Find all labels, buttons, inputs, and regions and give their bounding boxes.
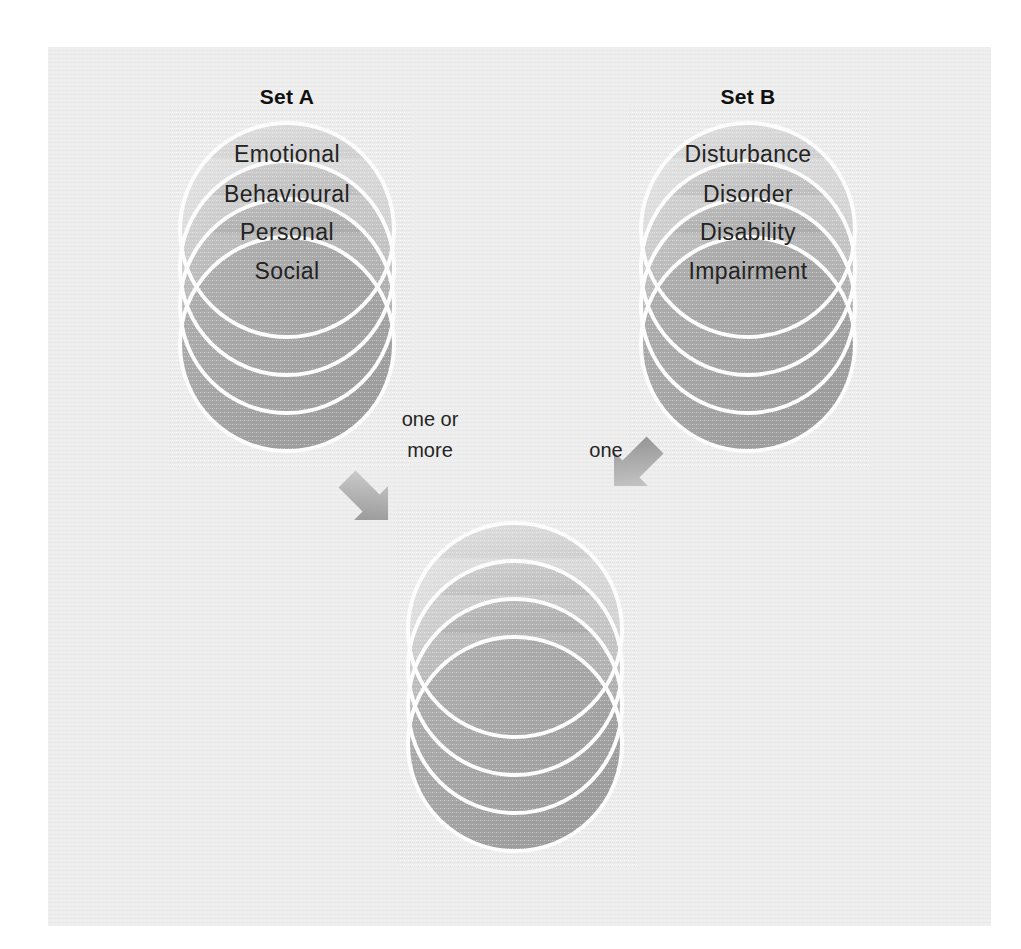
- connector-right-label-line1: one: [589, 439, 622, 461]
- set-a-label-behavioural: Behavioural: [224, 181, 350, 207]
- set-a-group: Set A Emotional Behavioural Personal Soc…: [170, 85, 410, 465]
- venn-flow-diagram: Set A Emotional Behavioural Personal Soc…: [0, 0, 1021, 949]
- set-a-label-social: Social: [254, 258, 319, 284]
- set-b-label-disturbance: Disturbance: [684, 141, 811, 167]
- connector-left-label-line2: more: [407, 439, 453, 461]
- set-b-label-disorder: Disorder: [703, 181, 793, 207]
- result-texture: [398, 510, 638, 865]
- diagram-canvas: Set A Emotional Behavioural Personal Soc…: [0, 0, 1021, 949]
- set-b-title: Set B: [720, 85, 775, 108]
- set-b-label-disability: Disability: [700, 219, 796, 245]
- set-a-label-personal: Personal: [240, 219, 334, 245]
- set-a-title: Set A: [260, 85, 314, 108]
- set-b-group: Set B Disturbance Disorder Disability Im…: [630, 85, 870, 465]
- set-b-label-impairment: Impairment: [688, 258, 807, 284]
- set-a-label-emotional: Emotional: [234, 141, 340, 167]
- connector-left-label-line1: one or: [402, 408, 459, 430]
- result-group: [398, 510, 638, 865]
